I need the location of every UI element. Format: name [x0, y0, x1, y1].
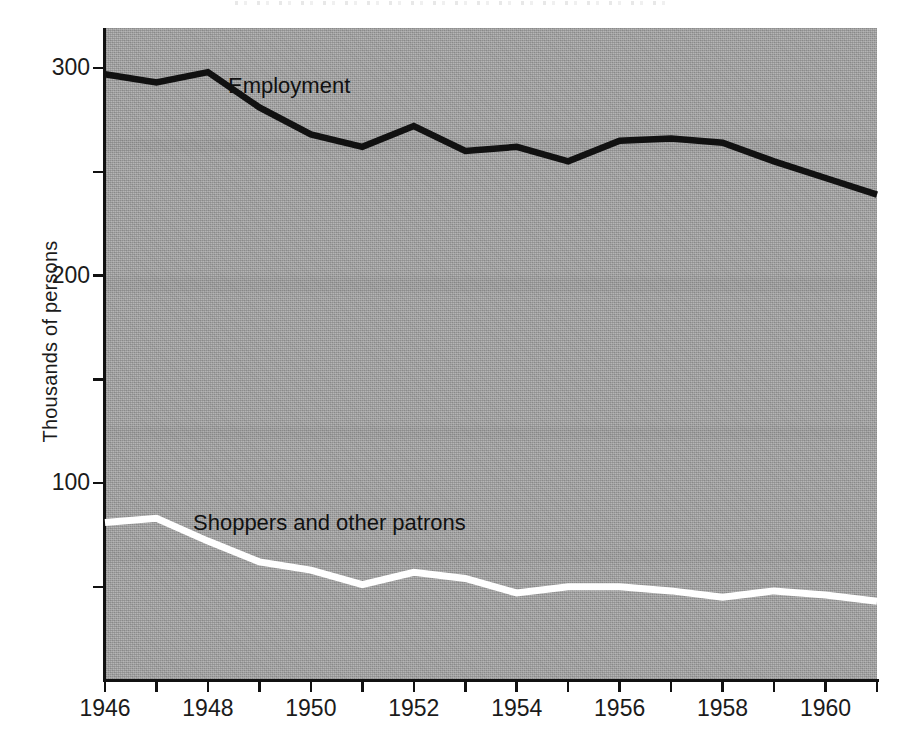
x-tick-label-1954: 1954 — [472, 697, 562, 720]
x-tick-label-1948: 1948 — [163, 697, 253, 720]
x-tick-label-1952: 1952 — [369, 697, 459, 720]
y-tick-label-300: 300 — [4, 56, 90, 79]
x-tick-1959 — [773, 681, 776, 692]
x-tick-1956 — [618, 681, 621, 692]
x-tick-label-1950: 1950 — [266, 697, 356, 720]
x-tick-1960 — [824, 681, 827, 692]
scan-banding-overlay — [105, 28, 877, 680]
x-tick-1946 — [104, 681, 107, 692]
chart-figure: 100200300 194619481950195219541956195819… — [0, 0, 912, 744]
y-tick-200 — [93, 274, 105, 277]
y-tick-100 — [93, 482, 105, 485]
x-tick-label-1960: 1960 — [781, 697, 871, 720]
x-tick-1950 — [310, 681, 313, 692]
x-tick-1955 — [567, 681, 570, 692]
x-tick-1961 — [876, 681, 879, 692]
x-tick-1954 — [515, 681, 518, 692]
y-axis-line — [103, 28, 106, 682]
x-tick-1958 — [721, 681, 724, 692]
x-tick-1951 — [361, 681, 364, 692]
y-tick-250 — [93, 171, 105, 174]
halftone-grain-overlay — [105, 28, 877, 680]
x-tick-1948 — [207, 681, 210, 692]
y-tick-50 — [93, 586, 105, 589]
x-tick-1949 — [258, 681, 261, 692]
x-tick-1953 — [464, 681, 467, 692]
plot-area — [105, 28, 877, 680]
x-tick-label-1956: 1956 — [575, 697, 665, 720]
employment-series-label: Employment — [228, 75, 350, 97]
scan-artifact — [235, 1, 665, 5]
x-tick-label-1958: 1958 — [678, 697, 768, 720]
x-axis-line — [103, 679, 879, 682]
y-tick-150 — [93, 378, 105, 381]
y-axis-title: Thousands of persons — [39, 192, 62, 492]
x-tick-1957 — [670, 681, 673, 692]
y-tick-300 — [93, 67, 105, 70]
x-tick-1947 — [155, 681, 158, 692]
x-tick-1952 — [413, 681, 416, 692]
shoppers-series-label: Shoppers and other patrons — [193, 512, 466, 534]
x-tick-label-1946: 1946 — [60, 697, 150, 720]
